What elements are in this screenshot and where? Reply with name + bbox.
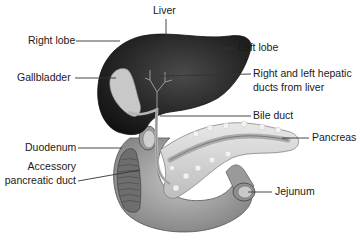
label-right-lobe: Right lobe xyxy=(28,34,75,48)
label-hepatic-ducts-line1: Right and left hepatic xyxy=(253,67,352,81)
label-gallbladder: Gallbladder xyxy=(17,71,71,85)
label-left-lobe: Left lobe xyxy=(238,41,278,55)
label-pancreas: Pancreas xyxy=(312,131,356,145)
liver-shape xyxy=(98,34,251,135)
label-accessory-duct: Accessory pancreatic duct xyxy=(4,160,76,187)
label-liver: Liver xyxy=(153,4,176,18)
label-bile-duct: Bile duct xyxy=(253,109,293,123)
label-jejunum: Jejunum xyxy=(275,185,315,199)
label-duodenum: Duodenum xyxy=(25,141,76,155)
label-accessory-duct-line1: Accessory xyxy=(4,160,76,174)
label-hepatic-ducts-line2: ducts from liver xyxy=(253,81,352,95)
label-hepatic-ducts: Right and left hepatic ducts from liver xyxy=(253,67,352,94)
label-accessory-duct-line2: pancreatic duct xyxy=(4,174,76,188)
